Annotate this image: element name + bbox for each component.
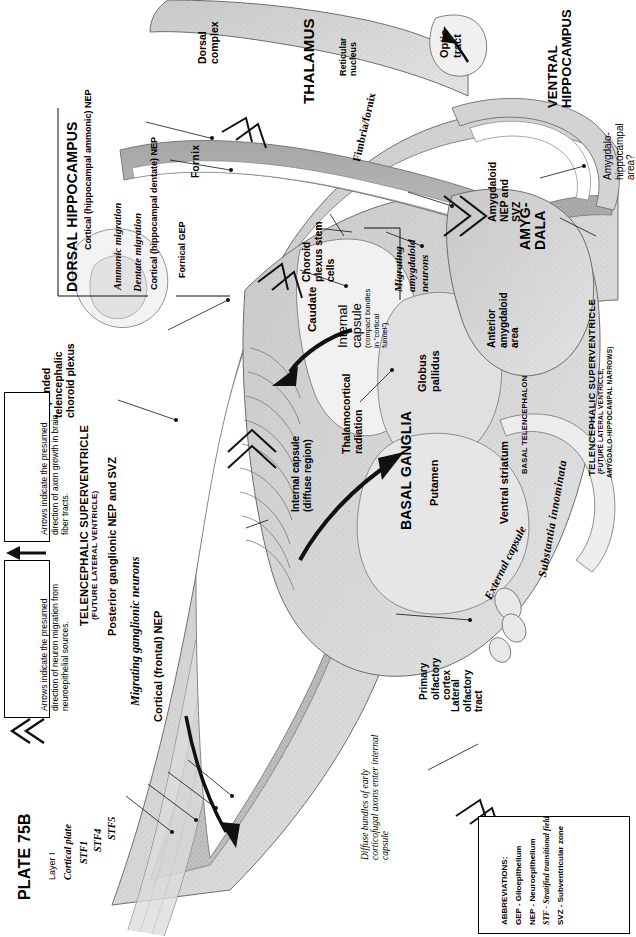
label-telencephalic-superventricle-left: TELENCEPHALIC SUPERVENTRICLE <box>78 425 90 626</box>
label-internal-capsule-title-text: Internal capsule <box>336 288 365 348</box>
label-globus-pallidus-text: Globus pallidus <box>416 342 441 392</box>
label-fornix: Fornix <box>190 144 201 178</box>
label-internal-capsule-diffuse: Internal capsule (diffuse region) <box>290 430 313 512</box>
label-globus-pallidus: Globus pallidus <box>416 342 441 392</box>
label-basal-telencephalon: BASAL TELENCEPHALON <box>520 376 529 474</box>
label-cortical-plate: Cortical plate <box>62 824 73 880</box>
label-amygdala-title-text: AMYG-DALA <box>518 192 547 250</box>
label-fornical-gep: Fornical GEP <box>178 221 188 278</box>
label-caudate: Caudate <box>306 287 319 332</box>
legend-neuron-migration: Arrows indicate the presumed direction o… <box>4 560 50 718</box>
label-dorsal-complex: Dorsal complex <box>196 8 221 64</box>
abbreviation-svz-text: SVZ - Subventricular zone <box>556 826 565 925</box>
brain-section-artwork <box>0 0 636 937</box>
legend-neuron-migration-label: Arrows indicate the presumed direction o… <box>39 584 70 711</box>
plate-canvas: PLATE 75B Layer I Cortical plate STF1 ST… <box>0 0 636 937</box>
label-internal-capsule-diffuse-text: Internal capsule (diffuse region) <box>290 430 313 512</box>
label-cortical-frontal-nep: Cortical (frontal) NEP <box>152 611 164 722</box>
abbreviation-svz: SVZ - Subventricular zone <box>549 826 567 925</box>
label-optic-tract-text: Optic tract <box>438 14 463 58</box>
abbreviations-box: ABBREVIATIONS: GEP - Glioepithelium NEP … <box>478 816 630 934</box>
label-choroid-plexus-stem-cells-text: Choroid plexus stem cells <box>300 212 336 282</box>
label-thalamus-title: THALAMUS <box>300 18 317 104</box>
label-reticular-nucleus: Reticular nucleus <box>338 26 359 76</box>
label-amygdalo-hippocampal-area: Amygdalo-hippocampal area? <box>602 106 636 180</box>
label-hippocampal-dentate-nep: Cortical (hippocampal dentate) NEP <box>150 137 160 290</box>
label-layer-1: Layer I <box>48 852 58 880</box>
label-putamen: Putamen <box>428 460 440 506</box>
label-diffuse-bundles-text: Diffuse bundles of early corticofugal ax… <box>360 732 390 860</box>
label-amygdalo-hippocampal-area-text: Amygdalo-hippocampal area? <box>602 106 636 180</box>
label-dentate-migration: Dentate migration <box>132 213 143 292</box>
label-anterior-amygdaloid-area: Anterior amygdaloid area <box>486 286 521 348</box>
label-hippocampal-ammonic-nep: Cortical (hippocampal ammonic) NEP <box>84 89 94 250</box>
label-stf5: STF5 <box>106 817 117 840</box>
label-internal-capsule-title: Internal capsule <box>336 288 365 348</box>
label-thalamocortical-radiation: Thalamocortical radiation <box>340 384 365 454</box>
label-amygdala-title: AMYG-DALA <box>518 192 548 250</box>
label-ventral-striatum: Ventral striatum <box>498 441 510 524</box>
label-optic-tract: Optic tract <box>438 14 463 58</box>
label-reticular-nucleus-text: Reticular nucleus <box>338 26 359 76</box>
label-stf1: STF1 <box>78 841 89 864</box>
label-anterior-amygdaloid-area-text: Anterior amygdaloid area <box>486 286 521 348</box>
label-superventricle-right-sub-1: (FUTURE LATERAL VENTRICLE, <box>597 368 604 474</box>
legend-neuron-migration-text: Arrows indicate the presumed direction o… <box>39 571 71 711</box>
label-primary-olfactory-cortex: Primary olfactory cortex <box>418 640 453 700</box>
label-lateral-olfactory-tract: Lateral olfactory tract <box>450 654 485 712</box>
label-choroid-plexus-stem-cells: Choroid plexus stem cells <box>300 212 337 282</box>
label-internal-capsule-subtitle-text: (compact bundles in "cortical funnel") <box>364 288 390 348</box>
label-posterior-ganglionic-nep-svz: Posterior ganglionic NEP and SVZ <box>106 457 118 636</box>
label-diffuse-bundles: Diffuse bundles of early corticofugal ax… <box>360 732 390 860</box>
label-superventricle-right-sub-2: AMYGDALO-HIPPOCAMPAL NARROWS) <box>606 346 613 478</box>
label-thalamocortical-radiation-text: Thalamocortical radiation <box>340 384 364 454</box>
label-basal-ganglia-title: BASAL GANGLIA <box>398 411 414 530</box>
label-migrating-amygdaloid-neurons: Migrating amygdaloid neurons <box>392 216 432 292</box>
legend-axon-growth-label: Arrows indicate the presumed direction o… <box>39 415 70 536</box>
page-title: PLATE 75B <box>16 813 34 900</box>
label-ammonic-migration: Ammonic migration <box>112 203 123 290</box>
label-ventral-hippocampus-text: VENTRAL HIPPOCAMPUS <box>546 8 575 108</box>
label-migrating-ganglionic-neurons: Migrating ganglionic neurons <box>128 557 143 706</box>
legend-neuron-migration-arrow-icon <box>4 716 48 746</box>
label-dorsal-complex-text: Dorsal complex <box>196 8 220 64</box>
label-ventral-hippocampus-title: VENTRAL HIPPOCAMPUS <box>546 8 575 108</box>
label-stf4: STF4 <box>92 829 103 852</box>
legend-axon-growth: Arrows indicate the presumed direction o… <box>4 392 50 542</box>
label-lateral-olfactory-tract-text: Lateral olfactory tract <box>450 654 485 712</box>
label-telencephalic-superventricle-right: TELENCEPHALIC SUPERVENTRICLE <box>586 299 597 476</box>
legend-axon-growth-text: Arrows indicate the presumed direction o… <box>39 403 71 535</box>
label-internal-capsule-subtitle: (compact bundles in "cortical funnel") <box>364 288 390 348</box>
label-telencephalic-superventricle-left-sub: (FUTURE LATERAL VENTRICLE) <box>90 491 99 620</box>
label-migrating-amygdaloid-neurons-text: Migrating amygdaloid neurons <box>392 216 432 292</box>
label-dorsal-hippocampus-title: DORSAL HIPPOCAMPUS <box>64 121 80 292</box>
label-primary-olfactory-cortex-text: Primary olfactory cortex <box>418 640 453 700</box>
